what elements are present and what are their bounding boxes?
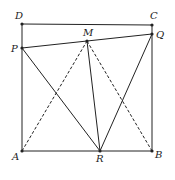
label-D: D [14, 10, 23, 21]
segment-DC [22, 24, 152, 25]
point-A [20, 149, 23, 152]
segment-AM-dashed [22, 41, 87, 151]
point-C [150, 23, 153, 26]
label-R: R [95, 153, 104, 164]
geometry-diagram: D C P Q M A R B [0, 0, 175, 180]
label-C: C [150, 10, 158, 21]
point-P [20, 46, 23, 49]
segment-QR [100, 34, 152, 151]
label-B: B [154, 149, 162, 160]
label-P: P [10, 43, 18, 54]
point-B [150, 149, 153, 152]
segment-MB-dashed [87, 41, 152, 151]
label-M: M [82, 27, 94, 38]
point-M [85, 39, 88, 42]
point-D [20, 22, 23, 25]
diagram-svg: D C P Q M A R B [0, 0, 175, 180]
segment-MR [87, 41, 100, 151]
label-A: A [11, 151, 19, 162]
label-Q: Q [156, 29, 164, 40]
point-Q [150, 32, 153, 35]
segment-PR [22, 48, 100, 151]
